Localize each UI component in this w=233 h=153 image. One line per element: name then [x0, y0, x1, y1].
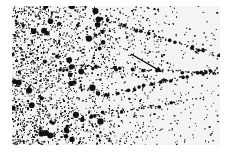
micrograph-image: [12, 6, 220, 145]
speckle-field: [12, 6, 220, 145]
arrow-indicator: [131, 54, 162, 72]
